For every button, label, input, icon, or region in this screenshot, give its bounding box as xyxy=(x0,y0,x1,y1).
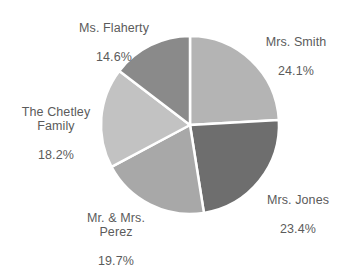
pie-label-name: Mr. & Mrs. Perez xyxy=(56,211,176,240)
pie-label-value: 18.2% xyxy=(2,148,110,163)
pie-label-ms-flaherty: Ms. Flaherty 14.6% xyxy=(52,6,176,79)
pie-label-mrs-jones: Mrs. Jones 23.4% xyxy=(250,178,346,251)
pie-label-value: 14.6% xyxy=(52,50,176,65)
pie-label-value: 24.1% xyxy=(246,64,346,79)
pie-label-mrs-smith: Mrs. Smith 24.1% xyxy=(246,20,346,93)
pie-label-name: Ms. Flaherty xyxy=(52,21,176,36)
pie-label-name: Mrs. Smith xyxy=(246,35,346,50)
pie-label-value: 23.4% xyxy=(250,222,346,237)
pie-label-name: The Chetley Family xyxy=(2,105,110,134)
pie-label-mr-and-mrs-perez: Mr. & Mrs. Perez 19.7% xyxy=(56,196,176,269)
pie-label-value: 19.7% xyxy=(56,254,176,269)
pie-label-the-chetley-family: The Chetley Family 18.2% xyxy=(2,90,110,177)
pie-label-name: Mrs. Jones xyxy=(250,193,346,208)
